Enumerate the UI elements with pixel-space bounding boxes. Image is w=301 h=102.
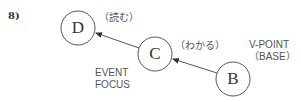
event-focus-line1: EVENT <box>95 67 130 79</box>
event-focus-label: EVENT FOCUS <box>95 67 130 91</box>
vpoint-base-label: V-POINT （BASE） <box>249 39 296 63</box>
node-c-annotation: （わかる） <box>175 37 225 52</box>
node-d-annotation: （読む） <box>99 9 139 24</box>
diagram-figure: 8) D C B （読む） （わかる） EVENT FOCUS V-POINT … <box>0 0 301 102</box>
node-d-letter: D <box>61 18 95 38</box>
arrow-c-to-d <box>96 33 139 48</box>
node-c-letter: C <box>138 44 172 64</box>
node-b-letter: B <box>216 69 250 89</box>
figure-number: 8) <box>8 10 20 21</box>
vpoint-line1: V-POINT <box>249 39 296 51</box>
vpoint-line2: （BASE） <box>249 51 296 63</box>
arrow-b-to-c <box>173 59 217 73</box>
event-focus-line2: FOCUS <box>95 79 130 91</box>
